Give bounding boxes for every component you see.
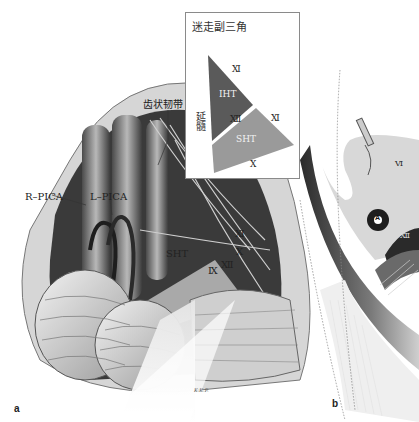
label-dentate-ligament: 齿状韧带 (143, 100, 183, 110)
label-cn-xi: Ⅺ (235, 229, 245, 239)
label-r-pica: R–PICA (25, 192, 63, 202)
inset-cn-xi-top: Ⅺ (232, 64, 241, 74)
inset-cn-x: Ⅹ (250, 159, 256, 169)
inset-sht: SHT (236, 134, 256, 144)
label-sht: SHT (166, 249, 188, 259)
label-cn-xii: Ⅻ (221, 260, 234, 270)
inset-vagoaccessory-triangle: 迷走副三角 延髓 Ⅺ IHT Ⅻ Ⅺ SHT Ⅹ (185, 12, 300, 179)
anatomical-figure: R–PICA L–PICA 齿状韧带 Ⅻ Ⅺ Ⅹ SHT Ⅸ K.K.P. 迷走… (0, 0, 419, 422)
inset-iht: IHT (219, 89, 236, 99)
marker-a: A (375, 214, 380, 221)
panel-letter-a: a (14, 403, 20, 414)
label-b-cn-vi: Ⅵ (395, 160, 403, 168)
panel-letter-b: b (332, 398, 338, 409)
label-cn-x: Ⅹ (236, 247, 243, 257)
label-cn-ix: Ⅸ (208, 266, 218, 276)
label-b-cn-xii: Ⅻ (400, 232, 410, 240)
label-l-pica: L–PICA (90, 192, 127, 202)
inset-triangles (186, 13, 299, 178)
artist-signature: K.K.P. (194, 387, 209, 393)
inset-cn-xi-right: Ⅺ (271, 113, 280, 123)
inset-cn-xii: Ⅻ (230, 114, 241, 124)
